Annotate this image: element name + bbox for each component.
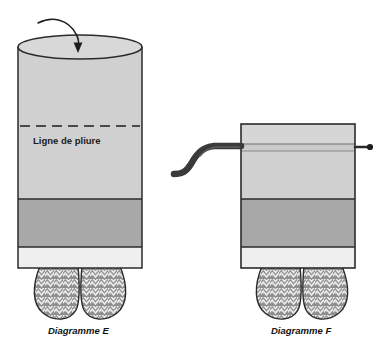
diagram-e-group: Ligne de pliure Diagramme E: [18, 19, 142, 336]
hem-band-f: [241, 247, 355, 268]
diagram-f-legs: [256, 266, 347, 319]
diagram-e-body: [18, 35, 142, 268]
leg-left-e: [34, 266, 79, 319]
diagram-e-legs: [34, 266, 125, 319]
diagram-f-body: [241, 124, 355, 268]
leg-right-e: [81, 266, 126, 319]
cord-end-knob-icon: [367, 144, 373, 150]
knitting-instruction-figure: Ligne de pliure Diagramme E: [0, 0, 378, 348]
contrast-band-f: [241, 199, 355, 247]
diagram-f-caption: Diagramme F: [271, 325, 331, 336]
figure-canvas: Ligne de pliure Diagramme E: [0, 0, 378, 348]
diagram-e-caption: Diagramme E: [48, 325, 109, 336]
folded-cuff-f: [241, 124, 355, 144]
leg-left-f: [256, 266, 301, 319]
diagram-f-group: Diagramme F: [174, 124, 373, 336]
hem-band-e: [18, 247, 142, 268]
contrast-band-e: [18, 199, 142, 247]
leg-right-f: [303, 266, 348, 319]
casing-channel-f: [241, 144, 355, 151]
fold-line-label-e: Ligne de pliure: [33, 135, 101, 146]
